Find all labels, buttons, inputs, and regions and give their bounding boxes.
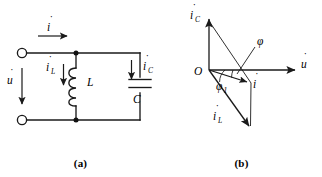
total-current-accent: ˙: [50, 13, 54, 25]
figure-root: i ˙ u ˙ i L ˙ L i C ˙ C (a): [0, 0, 322, 177]
angle-phi1-label: φ: [216, 80, 223, 93]
bottom-left-terminal: [17, 115, 26, 124]
inductor-coil: [69, 68, 76, 106]
voltage-phasor-accent: ˙: [304, 50, 308, 62]
construction-line-i-to-il: [251, 83, 252, 126]
capacitor-component-label: C: [133, 93, 141, 105]
panel-a-caption: (a): [0, 157, 161, 169]
phasor-svg: u ˙ i C ˙ i L ˙ i ˙ φ: [161, 0, 322, 150]
top-node: [74, 51, 79, 56]
inductor-current-phasor-accent: ˙: [216, 102, 220, 114]
inductor-component-label: L: [86, 76, 93, 88]
construction-line-ic-to-i: [209, 21, 251, 83]
panel-b-caption: (b): [161, 157, 322, 169]
capacitor-current-phasor-subscript: C: [195, 15, 201, 24]
origin-label: O: [194, 65, 203, 77]
top-left-terminal: [17, 48, 26, 57]
capacitor-current-phasor-accent: ˙: [193, 1, 197, 13]
bottom-node: [74, 118, 79, 123]
angle-phi1-subscript: 1: [224, 86, 228, 95]
inductor-current-subscript: L: [50, 67, 55, 76]
panel-circuit: i ˙ u ˙ i L ˙ L i C ˙ C (a): [0, 0, 161, 177]
capacitor-current-subscript: C: [148, 66, 154, 75]
angle-phi-arc: [232, 70, 234, 78]
resultant-current-phasor-accent: ˙: [255, 70, 259, 82]
source-voltage-accent: ˙: [10, 66, 14, 78]
resultant-current-phasor: [209, 70, 247, 82]
panel-phasor: u ˙ i C ˙ i L ˙ i ˙ φ: [161, 0, 322, 177]
circuit-svg: i ˙ u ˙ i L ˙ L i C ˙ C: [0, 0, 161, 150]
capacitor-current-accent: ˙: [146, 52, 150, 64]
inductor-current-phasor-subscript: L: [217, 116, 222, 125]
inductor-current-accent: ˙: [49, 53, 53, 65]
angle-phi-label: φ: [257, 35, 264, 48]
